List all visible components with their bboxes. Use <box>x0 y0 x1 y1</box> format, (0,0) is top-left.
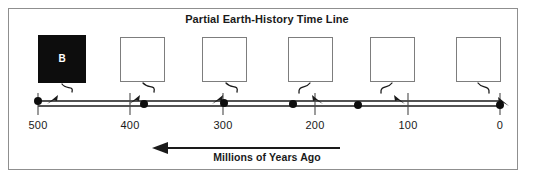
tick-label-400: 400 <box>110 119 150 131</box>
tick-label-100: 100 <box>388 119 428 131</box>
axis-caption: Millions of Years Ago <box>0 151 534 163</box>
event-box-1-label: B <box>39 52 85 66</box>
tick-label-300: 300 <box>203 119 243 131</box>
figure-frame <box>8 8 518 170</box>
event-box-1[interactable]: B <box>38 35 86 83</box>
tick-label-500: 500 <box>18 119 58 131</box>
event-box-2[interactable] <box>120 37 165 82</box>
event-box-5[interactable] <box>370 37 415 82</box>
event-box-4[interactable] <box>288 37 333 82</box>
event-box-6[interactable] <box>456 37 501 82</box>
event-box-3[interactable] <box>202 37 247 82</box>
tick-label-200: 200 <box>295 119 335 131</box>
tick-label-0: 0 <box>480 119 520 131</box>
figure-title: Partial Earth-History Time Line <box>0 13 534 25</box>
earth-history-timeline-figure: Partial Earth-History Time Line B <box>0 0 534 181</box>
